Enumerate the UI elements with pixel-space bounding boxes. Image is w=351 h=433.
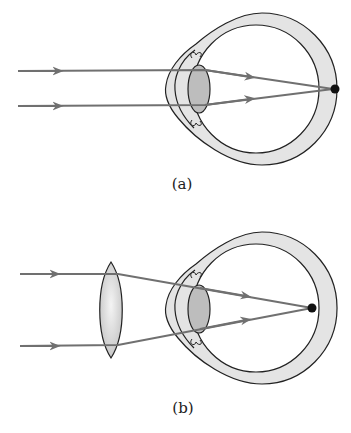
corrective-converging-lens: [100, 262, 123, 358]
caption-b: (b): [153, 399, 213, 417]
caption-a: (a): [152, 175, 212, 193]
focal-point-b: [308, 304, 317, 313]
panel-a: [18, 13, 340, 165]
eyeball-a: [166, 13, 338, 165]
panel-b: [20, 232, 337, 384]
eye-diagram: [0, 0, 351, 433]
focal-point-a: [331, 85, 340, 94]
